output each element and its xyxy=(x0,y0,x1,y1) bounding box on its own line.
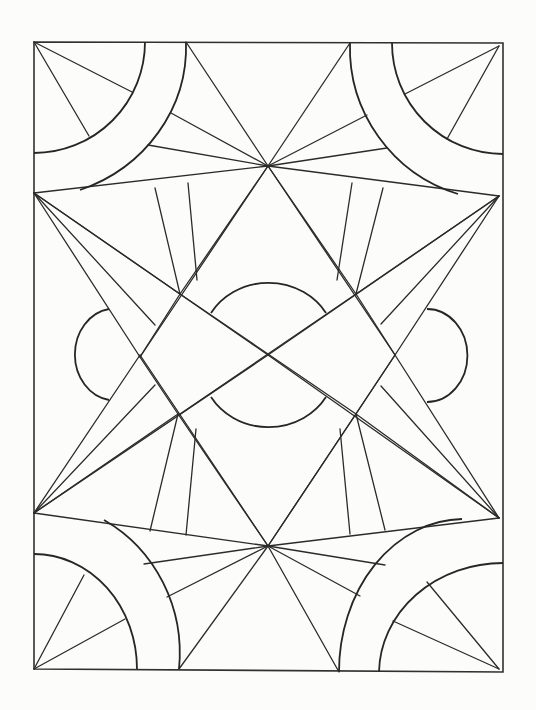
corner-top-left xyxy=(34,42,268,190)
rays-right-lower xyxy=(356,355,499,518)
corner-top-right xyxy=(268,43,503,194)
rays-right-upper xyxy=(356,196,499,355)
coloring-page xyxy=(0,0,536,710)
center-crossing xyxy=(140,294,395,414)
center-circle xyxy=(75,283,468,427)
corner-bottom-left xyxy=(34,520,268,669)
geometric-drawing xyxy=(0,0,536,710)
rays-top-star xyxy=(140,166,395,357)
rays-bottom-star xyxy=(140,355,395,546)
outer-frame xyxy=(34,42,503,672)
